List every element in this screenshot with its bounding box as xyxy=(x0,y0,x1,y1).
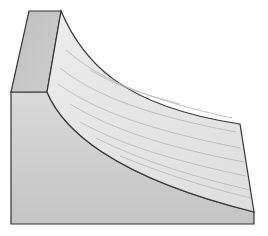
diagram-canvas xyxy=(0,0,268,236)
ramp-block-diagram xyxy=(0,0,268,236)
